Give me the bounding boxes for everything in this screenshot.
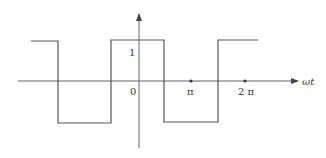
x-axis-label: ωt	[302, 76, 315, 87]
two-pi-tick-dot	[243, 79, 246, 82]
x-tick-label-pi: π	[187, 86, 194, 97]
x-tick-label-2pi: 2 π	[238, 86, 255, 97]
y-tick-label-1: 1	[129, 47, 135, 58]
origin-label: 0	[130, 86, 136, 97]
pi-tick-dot	[189, 79, 192, 82]
square-wave-diagram: 1 0 π 2 π ωt	[0, 0, 326, 158]
